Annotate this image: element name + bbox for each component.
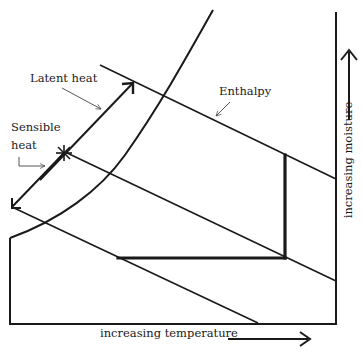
enthalpy-line-middle	[65, 152, 336, 281]
sensible-heat-label-line2: heat	[11, 140, 37, 152]
x-axis-label: increasing temperature	[100, 328, 238, 340]
junction-mark-icon	[56, 145, 72, 161]
enthalpy-pointer	[216, 102, 230, 116]
sensible-heat-arrow	[12, 145, 72, 208]
chart-frame	[9, 12, 337, 324]
enthalpy-line-top	[100, 65, 336, 179]
enthalpy-label: Enthalpy	[219, 86, 271, 98]
y-axis-label: increasing moisture	[343, 102, 355, 218]
process-path	[118, 155, 285, 258]
latent-heat-pointer	[62, 88, 101, 109]
psychrometric-diagram	[0, 0, 363, 359]
enthalpy-lines	[12, 65, 336, 323]
sensible-heat-label: Sensible	[11, 122, 61, 134]
latent-heat-label: Latent heat	[30, 73, 97, 85]
sensible-heat-pointer	[19, 157, 45, 166]
enthalpy-line-bottom	[12, 207, 258, 323]
